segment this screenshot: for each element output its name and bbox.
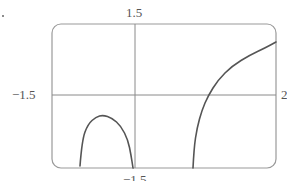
axis-label-left: −1.5 (12, 88, 36, 101)
plot-area (0, 0, 287, 181)
curve-branch-1 (80, 116, 133, 168)
stray-dot (2, 15, 4, 17)
axis-label-right: 2 (281, 88, 287, 101)
chart: 1.5 −1.5 −1.5 2 (0, 0, 287, 181)
axis-label-top: 1.5 (126, 6, 142, 19)
plot-frame (52, 24, 276, 168)
axis-label-bottom: −1.5 (123, 173, 147, 181)
curve-branch-2 (193, 42, 276, 168)
